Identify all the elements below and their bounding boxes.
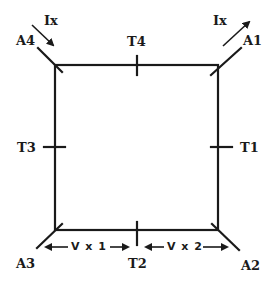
corner-label-a1: A1 bbox=[243, 34, 262, 47]
van-der-pauw-diagram: Ix Ix A4 A1 A3 A2 T4 T3 T1 T2 V x 1 V x … bbox=[0, 0, 279, 284]
terminal-label-t3: T3 bbox=[17, 141, 36, 154]
voltage-label-vx2: V x 2 bbox=[167, 241, 203, 252]
corner-label-a3: A3 bbox=[16, 257, 35, 270]
current-label-out: Ix bbox=[213, 14, 227, 27]
terminal-label-t1: T1 bbox=[240, 141, 259, 154]
terminal-label-t4: T4 bbox=[127, 35, 146, 48]
current-label-in: Ix bbox=[44, 14, 58, 27]
contact-a1 bbox=[211, 48, 241, 75]
contact-a4 bbox=[38, 48, 62, 72]
current-arrow-in-icon bbox=[32, 25, 53, 45]
sample-square bbox=[55, 65, 218, 230]
contact-a3 bbox=[37, 224, 62, 248]
corner-label-a2: A2 bbox=[241, 259, 260, 272]
voltage-label-vx1: V x 1 bbox=[71, 241, 107, 252]
contact-a2 bbox=[212, 224, 239, 250]
terminal-label-t2: T2 bbox=[128, 257, 147, 270]
corner-label-a4: A4 bbox=[16, 34, 35, 47]
